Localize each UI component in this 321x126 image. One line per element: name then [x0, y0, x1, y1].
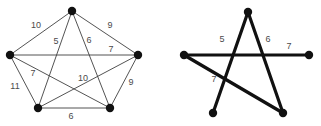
edge-weight-label: 7 [211, 74, 216, 84]
edge-weight-label: 5 [219, 34, 224, 44]
graph-edge [213, 12, 248, 113]
graph-figure-canvas: 10956711710965677 [0, 0, 321, 126]
graph-vertex [209, 109, 217, 117]
edge-weight-label: 7 [108, 44, 113, 54]
graph-vertex [244, 8, 252, 16]
edge-labels-layer: 10956711710965677 [10, 20, 291, 121]
graph-edge [72, 11, 138, 55]
graph-vertex [6, 51, 14, 59]
edge-weight-label: 5 [53, 36, 58, 46]
graph-edge [38, 11, 72, 108]
graph-edge [10, 55, 110, 108]
graph-edge [248, 12, 283, 113]
edge-weight-label: 9 [107, 20, 112, 30]
graph-vertex [134, 51, 142, 59]
edges-layer [10, 11, 309, 113]
graph-edge [184, 55, 283, 113]
graph-figure: 10956711710965677 [0, 0, 321, 126]
edge-weight-label: 6 [86, 35, 91, 45]
graph-vertex [305, 51, 313, 59]
graph-vertex [279, 109, 287, 117]
edge-weight-label: 11 [10, 81, 19, 91]
edge-weight-label: 6 [68, 111, 73, 121]
graph-edge [72, 11, 110, 108]
graph-vertex [180, 51, 188, 59]
graph-edge [10, 11, 72, 55]
graph-edge [110, 55, 138, 108]
edge-weight-label: 7 [286, 41, 291, 51]
edge-weight-label: 10 [31, 20, 41, 30]
graph-vertex [106, 104, 114, 112]
edge-weight-label: 9 [128, 77, 133, 87]
edge-weight-label: 7 [30, 68, 35, 78]
edge-weight-label: 6 [265, 34, 270, 44]
graph-vertex [34, 104, 42, 112]
graph-vertex [68, 7, 76, 15]
edge-weight-label: 10 [78, 73, 88, 83]
